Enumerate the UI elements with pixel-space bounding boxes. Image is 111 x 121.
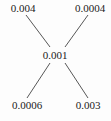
edge-top-right [65,15,88,47]
node-bottom-right: 0.003 [76,99,101,111]
edge-bottom-left [27,63,50,98]
node-top-left: 0.004 [11,2,36,14]
node-top-right: 0.0004 [75,2,105,14]
diagram-canvas: 0.004 0.0004 0.001 0.0006 0.003 [0,0,111,121]
node-bottom-left: 0.0006 [12,99,42,111]
edge-bottom-right [65,63,88,98]
node-center: 0.001 [43,49,68,61]
edge-top-left [26,15,50,47]
